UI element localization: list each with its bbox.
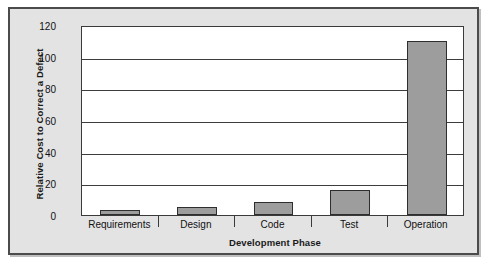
x-tick-label-operation: Operation [404, 219, 448, 230]
x-tick-label-code: Code [261, 219, 285, 230]
bar-code [254, 202, 294, 215]
y-tick-label-0: 0 [10, 211, 56, 222]
y-tick-label-60: 60 [10, 116, 56, 127]
x-tick-label-requirements: Requirements [88, 219, 150, 230]
bar-operation [407, 41, 447, 215]
y-tick-label-120: 120 [10, 21, 56, 32]
y-tick-label-40: 40 [10, 147, 56, 158]
y-tick-label-80: 80 [10, 84, 56, 95]
bar-design [177, 207, 217, 215]
x-axis-separator-tick [158, 216, 159, 227]
x-axis-separator-tick [234, 216, 235, 227]
y-tick-label-100: 100 [10, 52, 56, 63]
x-axis-separator-tick [311, 216, 312, 227]
chart-figure: Relative Cost to Correct a Defect Develo… [8, 7, 479, 255]
bar-test [330, 190, 370, 215]
x-axis-separator-tick [387, 216, 388, 227]
plot-area [81, 26, 464, 216]
bar-requirements [100, 210, 140, 215]
x-axis-title: Development Phase [80, 237, 470, 248]
x-tick-label-design: Design [180, 219, 211, 230]
y-tick-label-20: 20 [10, 179, 56, 190]
x-tick-label-test: Test [340, 219, 358, 230]
